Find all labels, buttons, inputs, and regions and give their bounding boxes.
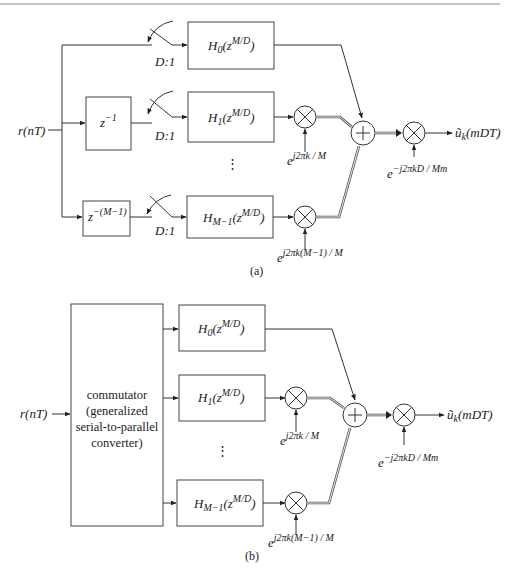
decimator-label-1: D:1: [154, 128, 175, 143]
adder-a: [351, 121, 375, 145]
caption-a: (a): [250, 264, 263, 278]
input-label-b: r(nT): [20, 406, 47, 421]
phase-factor-1-a: ej2πk / M: [287, 150, 327, 168]
multiplier-m1-a: [294, 206, 316, 228]
panel-a: r(nT) D:1 H0(zM/D) z−1 D:1 H1(zM/D): [18, 21, 501, 278]
svg-text:(generalized: (generalized: [86, 404, 149, 418]
phase-factor-m1-a: ej2πk(M−1) / M: [277, 247, 344, 265]
panel-b: r(nT) commutator (generalized serial-to-…: [20, 304, 493, 563]
decimator-switch-1: [150, 99, 172, 117]
multiplier-1-b: [285, 387, 307, 409]
decimator-switch-m1: [150, 196, 172, 217]
multiplier-m1-b: [285, 492, 307, 514]
output-multiplier-a: [403, 122, 425, 144]
filter-h1-box-b: [179, 375, 265, 421]
polyphase-filterbank-diagram: r(nT) D:1 H0(zM/D) z−1 D:1 H1(zM/D): [0, 0, 510, 574]
svg-text:serial-to-parallel: serial-to-parallel: [76, 420, 159, 434]
output-label-b: ũk(mDT): [447, 407, 493, 424]
svg-text:converter): converter): [91, 436, 142, 450]
decimator-switch-0: [150, 29, 172, 45]
ellipsis-b: ⋮: [216, 443, 229, 458]
caption-b: (b): [245, 549, 259, 563]
decimator-label-m1: D:1: [154, 223, 175, 238]
ellipsis-a: ⋮: [226, 156, 239, 171]
output-label-a: ũk(mDT): [455, 125, 501, 142]
delay-z1-box: [86, 97, 131, 150]
output-factor-b: e−j2πkD / Mm: [378, 452, 438, 470]
input-label-a: r(nT): [18, 123, 45, 138]
output-factor-a: e−j2πkD / Mm: [387, 163, 447, 181]
multiplier-1-a: [294, 106, 316, 128]
svg-text:commutator: commutator: [87, 388, 148, 402]
adder-b: [343, 403, 367, 427]
phase-factor-1-b: ej2πk / M: [280, 430, 320, 448]
phase-factor-m1-b: ej2πk(M−1) / M: [268, 532, 335, 550]
output-multiplier-b: [393, 404, 415, 426]
decimator-label-0: D:1: [154, 54, 175, 69]
